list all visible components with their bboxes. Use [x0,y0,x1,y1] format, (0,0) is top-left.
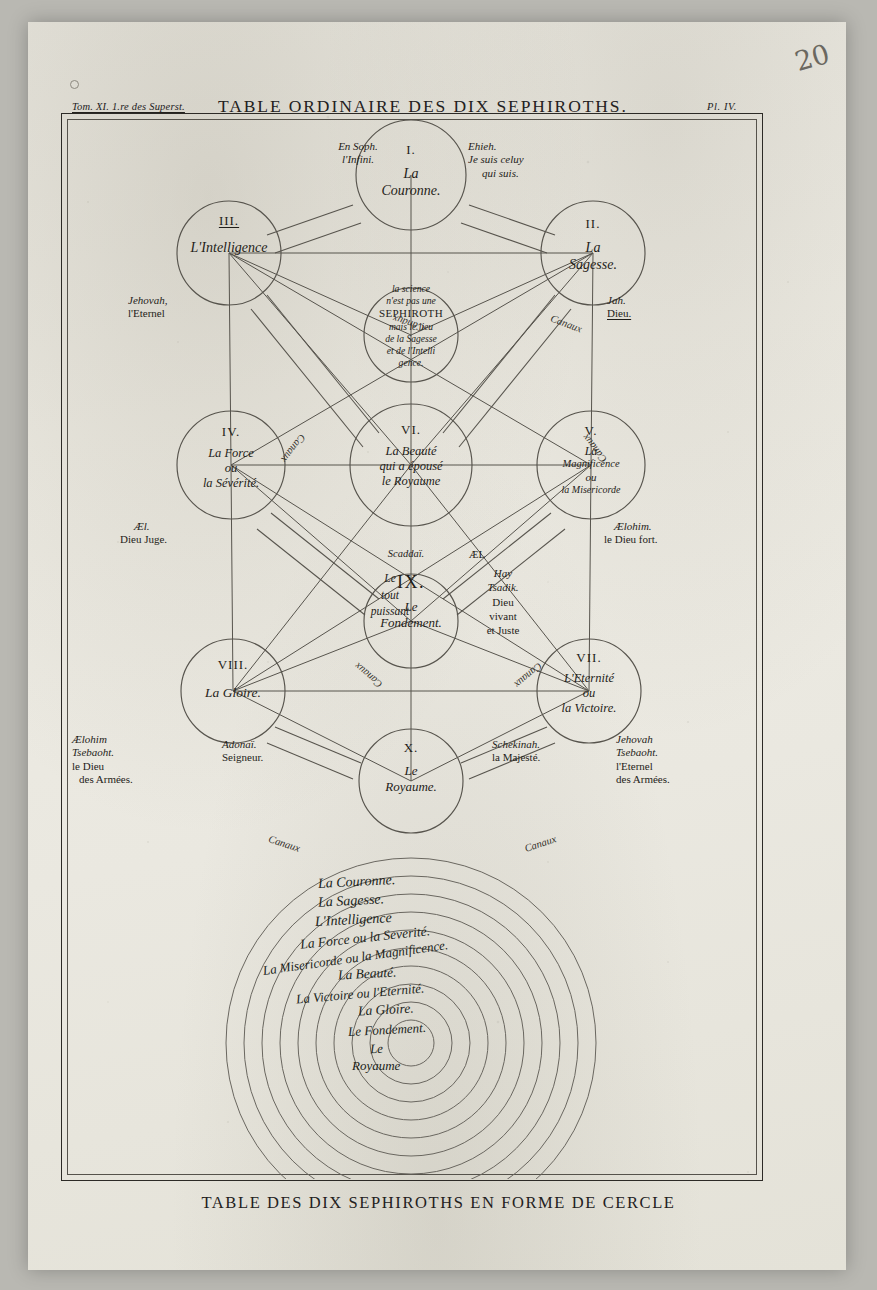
aelohimts-line-4: des Armées. [79,773,192,786]
sephira-2-numeral: II. [523,216,663,231]
sephira-4-name-3: la Sévérité. [161,476,301,491]
concentric-circle-diagram [226,858,596,1179]
divine-name-schekinah: Schekinah. la Majesté. [492,738,612,765]
divine-name-scaddai-body: Le tout puissant [355,570,425,620]
divine-name-adonai: Adonaï. Seigneur. [222,738,332,765]
haytsadik-line-5: vivant [465,609,541,623]
ensoph-line-2: l'Infini. [303,153,413,166]
daath-line-6: et de l'Intelli [341,345,481,357]
sephira-1-name-2: Couronne. [341,183,481,200]
sephira-5-name-4: la Misericorde [521,484,661,496]
haytsadik-line-3: Tsadik. [465,580,541,594]
divine-name-ael: Æl. Dieu Juge. [120,520,230,547]
ael-line-1: Æl. [134,520,230,533]
sephira-4-numeral: IV. [161,424,301,439]
bottom-caption: TABLE DES DIX SEPHIROTHS EN FORME DE CER… [0,1193,877,1213]
ael-line-2: Dieu Juge. [120,533,230,546]
jehovahts-line-2: Tsebaoht. [616,746,746,759]
sephira-6-label: VI. La Beauté qui a épousé le Royaume [341,422,481,489]
sephira-2-name-2: Sagesse. [523,257,663,274]
sephira-10-name-1: Le [341,763,481,778]
divine-name-jehovah: Jehovah, l'Eternel [128,294,238,321]
sephira-8-numeral: VIII. [163,657,303,672]
ehieh-line-2: Je suis celuy [468,153,598,166]
sephira-10-label: X. Le Royaume. [341,740,481,794]
ring-label-6: La Beauté. [338,964,397,983]
sephira-2-label: II. La Sagesse. [523,216,663,273]
daath-line-5: de la Sagesse [341,333,481,345]
ensoph-line-1: En Soph. [303,140,413,153]
scaddai-line-3: tout [355,587,425,604]
jah-line-2: Dieu. [607,307,697,320]
haytsadik-line-6: et Juste [465,623,541,637]
sephira-3-name-1: L'Intelligence [159,240,299,257]
sephira-10-name-2: Royaume. [341,779,481,794]
haytsadik-line-1: ÆL [452,548,502,561]
sephira-8-name-1: La Gloire. [163,685,303,701]
divine-name-hay-tsadik: Hay Tsadik. Dieu vivant et Juste [465,566,541,637]
ehieh-line-3: qui suis. [482,167,598,180]
schekinah-line-1: Schekinah. [492,738,612,751]
sephira-8-label: VIII. La Gloire. [163,657,303,701]
divine-name-ensoph: En Soph. l'Infini. [303,140,413,167]
sephira-5-name-3: ou [521,471,661,484]
sephira-3-numeral: III. [159,213,299,228]
jehovah-line-1: Jehovah, [128,294,238,307]
tome-reference: Tom. XI. 1.re des Superst. [72,101,185,112]
haytsadik-line-4: Dieu [465,595,541,609]
ehieh-line-1: Ehieh. [468,140,598,153]
divine-name-scaddai: Scaddaï. [371,548,441,561]
jehovah-line-2: l'Eternel [128,307,238,320]
sephira-6-name-2: qui a épousé [341,459,481,474]
aelohim-line-2: le Dieu fort. [604,533,734,546]
schekinah-line-2: la Majesté. [492,751,612,764]
aelohimts-line-1: Ælohim [72,733,192,746]
plate-number: Pl. IV. [707,101,737,112]
sephira-6-name-1: La Beauté [341,444,481,459]
ring-label-8: La Gloire. [358,1001,415,1020]
daath-line-1: la science [341,283,481,295]
sephira-7-name-1: L'Eternité [519,671,659,686]
jehovahts-line-4: des Armées. [616,773,746,786]
aelohimts-line-2: Tsebaoht. [72,746,192,759]
aelohim-line-1: Ælohim. [614,520,734,533]
sephira-6-name-3: le Royaume [341,474,481,489]
scaddai-line-1: Scaddaï. [371,548,441,561]
scaddai-line-2: Le [355,570,425,587]
divine-name-jehovah-tsebaoht: Jehovah Tsebaoht. l'Eternel des Armées. [616,733,746,787]
daath-line-2: n'est pas une [341,295,481,307]
punch-hole-mark [70,80,79,89]
jah-line-1: Jah. [607,294,697,307]
sephira-5-name-2: Magnificence [521,458,661,470]
adonai-line-1: Adonaï. [222,738,332,751]
ring-label-10b: Royaume [352,1058,400,1074]
adonai-line-2: Seigneur. [222,751,332,764]
divine-name-ehieh: Ehieh. Je suis celuy qui suis. [468,140,598,180]
sephira-6-numeral: VI. [341,422,481,437]
sephira-2-name-1: La [523,240,663,257]
haytsadik-line-2: Hay [465,566,541,580]
jehovahts-line-1: Jehovah [616,733,746,746]
jehovahts-line-3: l'Eternel [616,760,746,773]
daath-line-7: gence. [341,357,481,369]
divine-name-jah: Jah. Dieu. [607,294,697,321]
divine-name-aelohim-tsebaoht: Ælohim Tsebaoht. le Dieu des Armées. [72,733,192,787]
divine-name-ael-upper: ÆL [452,548,502,561]
ring-label-10: Le [370,1041,384,1057]
scaddai-line-4: puissant [355,603,425,620]
sephira-5-label: V. La Magnificence ou la Misericorde [521,423,661,496]
sephira-1-name-1: La [341,166,481,183]
sephira-7-name-2: ou [519,686,659,701]
sephira-4-name-2: ou [161,461,301,476]
sephira-10-numeral: X. [341,740,481,755]
sephira-3-label: III. L'Intelligence [159,213,299,257]
divine-name-aelohim: Ælohim. le Dieu fort. [604,520,734,547]
aelohimts-line-3: le Dieu [72,760,192,773]
sephira-7-name-3: la Victoire. [519,701,659,716]
sephira-7-label: VII. L'Eternité ou la Victoire. [519,650,659,716]
